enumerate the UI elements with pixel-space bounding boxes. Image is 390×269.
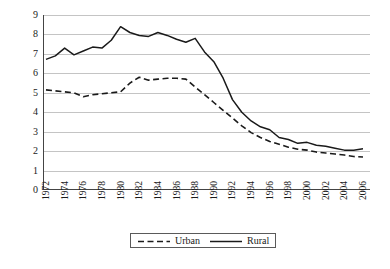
chart-legend: UrbanRural bbox=[130, 233, 276, 248]
axis-lines bbox=[43, 15, 370, 190]
x-axis-tick-label: 1994 bbox=[246, 179, 256, 215]
x-axis-tick-label: 1980 bbox=[116, 179, 126, 215]
y-axis-tick-label: 0 bbox=[24, 185, 38, 195]
x-axis-tick-label-text: 1974 bbox=[60, 179, 70, 215]
plot-area bbox=[43, 15, 370, 190]
x-axis-tick-label-text: 1996 bbox=[265, 179, 275, 215]
y-axis-tick-label: 8 bbox=[24, 29, 38, 39]
x-axis-tick-label-text: 2006 bbox=[358, 179, 368, 215]
y-axis-tick-label: 3 bbox=[24, 127, 38, 137]
x-axis-tick-labels: 1972197419761978198019821984198619881990… bbox=[43, 192, 370, 232]
gridlines bbox=[43, 16, 370, 172]
x-axis-tick-label: 1986 bbox=[172, 179, 182, 215]
x-axis-tick-label-text: 2000 bbox=[302, 179, 312, 215]
series-lines bbox=[46, 27, 363, 157]
x-axis-tick-label-text: 1982 bbox=[134, 179, 144, 215]
legend-swatch-dashed bbox=[137, 237, 171, 245]
x-axis-tick-label-text: 1978 bbox=[97, 179, 107, 215]
x-axis-tick-label-text: 1998 bbox=[283, 179, 293, 215]
fertility-rate-line-chart: Total Fertility Rate 9876543210 19721974… bbox=[0, 0, 390, 269]
y-axis-tick-label: 4 bbox=[24, 107, 38, 117]
x-axis-tick-label: 1974 bbox=[60, 179, 70, 215]
x-axis-tick-label: 1988 bbox=[190, 179, 200, 215]
x-axis-tick-label: 2006 bbox=[358, 179, 368, 215]
x-axis-tick-label: 1978 bbox=[97, 179, 107, 215]
x-axis-tick-label: 1992 bbox=[227, 179, 237, 215]
y-axis-tick-label: 9 bbox=[24, 10, 38, 20]
x-axis-tick-label: 1984 bbox=[153, 179, 163, 215]
x-axis-tick-label-text: 1988 bbox=[190, 179, 200, 215]
x-axis-tick-label: 2004 bbox=[339, 179, 349, 215]
x-axis-tick-label: 1998 bbox=[283, 179, 293, 215]
x-axis-tick-label-text: 1976 bbox=[78, 179, 88, 215]
x-axis-tick-label: 1982 bbox=[134, 179, 144, 215]
x-axis-tick-label-text: 1990 bbox=[209, 179, 219, 215]
x-axis-tick-label-text: 1994 bbox=[246, 179, 256, 215]
legend-label: Rural bbox=[247, 236, 269, 246]
x-axis-tick-label: 1990 bbox=[209, 179, 219, 215]
legend-swatch-solid bbox=[209, 237, 243, 245]
x-axis-tick-label-text: 1986 bbox=[172, 179, 182, 215]
y-axis-tick-label: 1 bbox=[24, 166, 38, 176]
y-axis-tick-labels: 9876543210 bbox=[24, 0, 38, 269]
x-axis-tick-label-text: 1972 bbox=[41, 179, 51, 215]
legend-entry-rural[interactable]: Rural bbox=[209, 234, 269, 247]
x-axis-tick-label-text: 1980 bbox=[116, 179, 126, 215]
y-axis-tick-label: 6 bbox=[24, 68, 38, 78]
y-axis-tick-label: 2 bbox=[24, 146, 38, 156]
x-axis-tick-label: 1996 bbox=[265, 179, 275, 215]
y-axis-tick-label: 5 bbox=[24, 88, 38, 98]
x-axis-tick-label: 1972 bbox=[41, 179, 51, 215]
x-axis-tick-label-text: 1992 bbox=[227, 179, 237, 215]
x-axis-tick-label: 2002 bbox=[321, 179, 331, 215]
legend-label: Urban bbox=[175, 236, 200, 246]
x-axis-tick-label: 1976 bbox=[78, 179, 88, 215]
x-axis-tick-label: 2000 bbox=[302, 179, 312, 215]
x-axis-tick-label-text: 2004 bbox=[339, 179, 349, 215]
y-axis-tick-label: 7 bbox=[24, 49, 38, 59]
legend-entry-urban[interactable]: Urban bbox=[137, 234, 200, 247]
plot-svg bbox=[43, 15, 370, 190]
series-line-rural bbox=[46, 27, 363, 150]
x-axis-tick-label-text: 2002 bbox=[321, 179, 331, 215]
x-axis-tick-label-text: 1984 bbox=[153, 179, 163, 215]
